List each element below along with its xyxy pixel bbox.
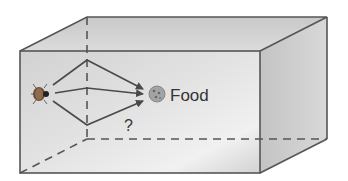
box-front-face (20, 51, 260, 173)
question-mark: ? (124, 117, 133, 135)
diagram: Food ? (0, 0, 348, 181)
food-icon (149, 86, 165, 102)
food-label: Food (170, 86, 209, 106)
